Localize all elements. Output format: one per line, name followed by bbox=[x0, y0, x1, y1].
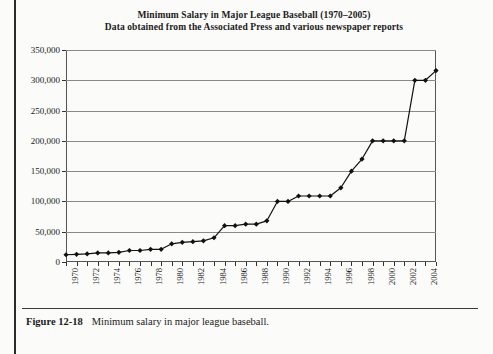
x-axis-tick-mark bbox=[288, 262, 289, 266]
data-point-marker bbox=[275, 199, 280, 204]
chart-subtitle: Data obtained from the Associated Press … bbox=[30, 21, 478, 33]
data-point-marker bbox=[201, 238, 206, 243]
data-point-marker bbox=[381, 138, 386, 143]
data-point-marker bbox=[190, 239, 195, 244]
data-point-marker bbox=[233, 223, 238, 228]
x-axis-tick-mark bbox=[246, 262, 247, 266]
x-axis-tick-label: 1994 bbox=[323, 268, 333, 285]
x-axis-tick-mark bbox=[66, 262, 67, 266]
x-axis-tick-label: 1970 bbox=[70, 268, 80, 285]
x-axis-tick-mark bbox=[341, 262, 342, 266]
x-axis-tick-mark bbox=[140, 262, 141, 266]
x-axis-tick-mark bbox=[129, 262, 130, 266]
data-point-marker bbox=[402, 138, 407, 143]
x-axis-tick-mark bbox=[404, 262, 405, 266]
x-axis-tick-label: 1984 bbox=[218, 268, 228, 285]
x-axis-tick-mark bbox=[214, 262, 215, 266]
x-axis-tick-mark bbox=[309, 262, 310, 266]
x-axis-tick-label: 2004 bbox=[429, 268, 439, 285]
page-margin-rule bbox=[14, 0, 16, 354]
y-axis-tick-label: 250,000 bbox=[31, 106, 60, 116]
x-axis-tick-label: 1998 bbox=[366, 268, 376, 285]
x-axis-tick-mark bbox=[172, 262, 173, 266]
data-point-marker bbox=[317, 193, 322, 198]
x-axis-tick-mark bbox=[277, 262, 278, 266]
x-axis-tick-mark bbox=[182, 262, 183, 266]
data-point-marker bbox=[137, 248, 142, 253]
x-axis-tick-mark bbox=[436, 262, 437, 266]
data-point-marker bbox=[285, 199, 290, 204]
y-axis-tick-label: 200,000 bbox=[31, 136, 60, 146]
x-axis-tick-label: 1980 bbox=[175, 268, 185, 285]
data-point-marker bbox=[106, 250, 111, 255]
x-axis-tick-label: 1974 bbox=[112, 268, 122, 285]
data-point-marker bbox=[74, 252, 79, 257]
data-point-marker bbox=[391, 138, 396, 143]
x-axis-tick-label: 1988 bbox=[260, 268, 270, 285]
x-axis-tick-mark bbox=[394, 262, 395, 266]
y-axis-tick-label: 150,000 bbox=[31, 166, 60, 176]
x-axis-tick-label: 2002 bbox=[408, 268, 418, 285]
y-axis-tick-label: 0 bbox=[56, 257, 61, 267]
series-line bbox=[66, 71, 436, 255]
data-point-marker bbox=[169, 241, 174, 246]
data-point-marker bbox=[296, 193, 301, 198]
x-axis-tick-label: 1990 bbox=[281, 268, 291, 285]
data-point-marker bbox=[63, 252, 68, 257]
chart-plot-area: 050,000100,000150,000200,000250,000300,0… bbox=[66, 50, 436, 262]
x-axis-tick-label: 2000 bbox=[387, 268, 397, 285]
data-point-marker bbox=[307, 193, 312, 198]
caption-divider bbox=[22, 308, 478, 309]
x-axis-tick-mark bbox=[383, 262, 384, 266]
x-axis-tick-mark bbox=[193, 262, 194, 266]
figure-caption-label: Figure 12-18 bbox=[26, 316, 83, 327]
x-axis-tick-label: 1976 bbox=[133, 268, 143, 285]
x-axis-tick-mark bbox=[235, 262, 236, 266]
x-axis-tick-mark bbox=[362, 262, 363, 266]
x-axis-tick-label: 1992 bbox=[302, 268, 312, 285]
x-axis-tick-label: 1996 bbox=[344, 268, 354, 285]
x-axis-tick-mark bbox=[98, 262, 99, 266]
x-axis-tick-mark bbox=[425, 262, 426, 266]
x-axis-tick-mark bbox=[415, 262, 416, 266]
data-point-marker bbox=[148, 247, 153, 252]
figure-container: Minimum Salary in Major League Baseball … bbox=[0, 0, 493, 354]
data-point-marker bbox=[95, 250, 100, 255]
x-axis-tick-mark bbox=[320, 262, 321, 266]
x-axis-tick-mark bbox=[161, 262, 162, 266]
y-axis-tick-label: 50,000 bbox=[35, 227, 60, 237]
data-series-layer bbox=[66, 50, 436, 262]
data-point-marker bbox=[159, 247, 164, 252]
data-point-marker bbox=[116, 250, 121, 255]
x-axis-tick-label: 1978 bbox=[154, 268, 164, 285]
data-point-marker bbox=[254, 222, 259, 227]
y-axis-tick-label: 100,000 bbox=[31, 196, 60, 206]
x-axis-tick-mark bbox=[351, 262, 352, 266]
y-axis-tick-label: 300,000 bbox=[31, 75, 60, 85]
x-axis-tick-mark bbox=[256, 262, 257, 266]
x-axis-tick-mark bbox=[330, 262, 331, 266]
x-axis-tick-label: 1986 bbox=[239, 268, 249, 285]
data-point-marker bbox=[85, 251, 90, 256]
x-axis-tick-mark bbox=[225, 262, 226, 266]
series-markers bbox=[63, 68, 438, 257]
data-point-marker bbox=[243, 222, 248, 227]
data-point-marker bbox=[127, 248, 132, 253]
x-axis-tick-mark bbox=[77, 262, 78, 266]
x-axis-tick-label: 1982 bbox=[196, 268, 206, 285]
data-point-marker bbox=[180, 240, 185, 245]
x-axis-tick-mark bbox=[299, 262, 300, 266]
x-axis-tick-mark bbox=[87, 262, 88, 266]
data-point-marker bbox=[412, 78, 417, 83]
x-axis-tick-mark bbox=[203, 262, 204, 266]
x-axis-tick-mark bbox=[151, 262, 152, 266]
chart-title: Minimum Salary in Major League Baseball … bbox=[30, 9, 478, 21]
x-axis-tick-mark bbox=[108, 262, 109, 266]
figure-caption-text: Minimum salary in major league baseball. bbox=[92, 316, 269, 327]
x-axis-tick-mark bbox=[119, 262, 120, 266]
x-axis-tick-mark bbox=[267, 262, 268, 266]
x-axis-tick-label: 1972 bbox=[91, 268, 101, 285]
x-axis-tick-mark bbox=[373, 262, 374, 266]
y-axis-tick-label: 350,000 bbox=[31, 45, 60, 55]
chart-title-block: Minimum Salary in Major League Baseball … bbox=[30, 9, 478, 33]
